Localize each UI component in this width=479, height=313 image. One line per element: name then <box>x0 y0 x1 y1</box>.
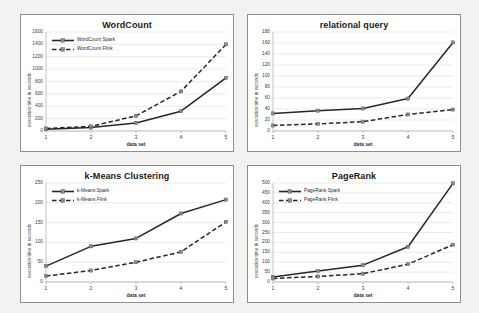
y-tick-label: 150 <box>248 249 270 254</box>
y-tick-label: 40 <box>248 106 270 111</box>
legend-pagerank: PageRank SparkPageRank Flink <box>279 187 340 205</box>
x-tick-label: 2 <box>308 285 328 291</box>
data-point-marker <box>361 120 364 123</box>
legend-swatch-icon <box>279 188 301 195</box>
legend-swatch-icon <box>279 197 301 204</box>
series-line-spark <box>46 200 226 267</box>
y-tick-label: 800 <box>21 79 43 84</box>
y-tick-label: 200 <box>21 116 43 121</box>
x-tick-label: 1 <box>263 285 283 291</box>
y-tick-label: 400 <box>248 200 270 205</box>
x-axis-title-kmeans-clustering: data set <box>46 292 226 298</box>
data-point-marker <box>316 122 319 125</box>
data-point-marker <box>134 121 137 124</box>
legend-label: PageRank Spark <box>304 189 340 194</box>
data-point-marker <box>316 275 319 278</box>
y-tick-label: 120 <box>248 62 270 67</box>
x-tick-label: 5 <box>216 285 234 291</box>
legend-item-spark: PageRank Spark <box>279 187 340 196</box>
y-tick-label: 400 <box>21 103 43 108</box>
y-tick-label: 0 <box>248 279 270 284</box>
data-point-marker <box>224 220 227 223</box>
legend-wordcount: WordCount SparkWordCount Flink <box>52 36 115 54</box>
data-point-marker <box>316 109 319 112</box>
x-tick-label: 3 <box>353 285 373 291</box>
data-point-marker <box>451 243 454 246</box>
x-tick-label: 1 <box>36 134 56 140</box>
data-point-marker <box>406 97 409 100</box>
data-point-marker <box>44 265 47 268</box>
legend-label: k-Means Flink <box>77 198 107 203</box>
chart-plot-area-pagerank: PageRankexecution time in secondsdata se… <box>248 166 460 302</box>
data-point-marker <box>44 127 47 130</box>
legend-label: WordCount Flink <box>77 47 113 52</box>
legend-item-flink: WordCount Flink <box>52 45 115 54</box>
chart-title-pagerank: PageRank <box>248 171 460 181</box>
x-tick-label: 4 <box>398 285 418 291</box>
series-line-spark <box>273 42 453 113</box>
y-tick-label: 0 <box>21 128 43 133</box>
x-tick-label: 3 <box>126 285 146 291</box>
y-tick-label: 1600 <box>21 29 43 34</box>
chart-plot-area-relational-query: relational queryexecution time in second… <box>248 15 460 151</box>
data-point-marker <box>134 261 137 264</box>
chart-title-kmeans-clustering: k-Means Clustering <box>21 171 233 181</box>
y-tick-label: 80 <box>248 84 270 89</box>
y-tick-label: 0 <box>21 279 43 284</box>
chart-grid: WordCountexecution time in secondsdata s… <box>20 14 461 303</box>
x-tick-label: 1 <box>263 134 283 140</box>
chart-canvas-relational-query <box>248 15 460 151</box>
data-point-marker <box>271 277 274 280</box>
y-tick-label: 250 <box>21 180 43 185</box>
x-tick-label: 1 <box>36 285 56 291</box>
x-tick-label: 4 <box>171 134 191 140</box>
data-point-marker <box>451 182 454 185</box>
y-tick-label: 50 <box>248 269 270 274</box>
axes <box>273 32 453 133</box>
data-point-marker <box>134 114 137 117</box>
chart-plot-area-wordcount: WordCountexecution time in secondsdata s… <box>21 15 233 151</box>
x-axis-title-wordcount: data set <box>46 141 226 147</box>
data-point-marker <box>361 272 364 275</box>
y-tick-label: 100 <box>248 259 270 264</box>
y-tick-label: 180 <box>248 29 270 34</box>
data-point-marker <box>179 90 182 93</box>
chart-panel-pagerank: PageRankexecution time in secondsdata se… <box>247 165 461 303</box>
y-tick-label: 100 <box>21 239 43 244</box>
data-point-marker <box>224 76 227 79</box>
x-tick-label: 5 <box>443 285 461 291</box>
data-point-marker <box>271 124 274 127</box>
y-axis-title-kmeans-clustering: execution time in seconds <box>27 224 32 278</box>
data-point-marker <box>224 198 227 201</box>
y-tick-label: 20 <box>248 117 270 122</box>
x-tick-label: 4 <box>171 285 191 291</box>
y-tick-label: 50 <box>21 259 43 264</box>
y-tick-label: 1200 <box>21 54 43 59</box>
data-point-marker <box>451 108 454 111</box>
chart-plot-area-kmeans-clustering: k-Means Clusteringexecution time in seco… <box>21 166 233 302</box>
legend-item-spark: WordCount Spark <box>52 36 115 45</box>
data-point-marker <box>406 113 409 116</box>
data-point-marker <box>89 125 92 128</box>
y-tick-label: 60 <box>248 95 270 100</box>
data-point-marker <box>316 270 319 273</box>
data-point-marker <box>179 110 182 113</box>
legend-label: WordCount Spark <box>77 38 115 43</box>
y-tick-label: 500 <box>248 180 270 185</box>
legend-swatch-icon <box>52 37 74 44</box>
data-point-marker <box>406 245 409 248</box>
data-point-marker <box>361 107 364 110</box>
data-point-marker <box>89 269 92 272</box>
chart-panel-relational-query: relational queryexecution time in second… <box>247 14 461 152</box>
legend-label: k-Means Spark <box>77 189 109 194</box>
y-tick-label: 250 <box>248 230 270 235</box>
legend-swatch-icon <box>52 188 74 195</box>
x-tick-label: 2 <box>81 285 101 291</box>
y-tick-label: 0 <box>248 128 270 133</box>
y-tick-label: 140 <box>248 51 270 56</box>
data-point-marker <box>406 263 409 266</box>
x-tick-label: 3 <box>353 134 373 140</box>
data-point-marker <box>271 112 274 115</box>
data-point-marker <box>89 245 92 248</box>
y-tick-label: 600 <box>21 91 43 96</box>
